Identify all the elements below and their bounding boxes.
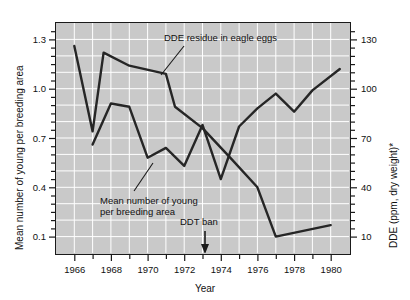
x-axis-tick-label: 1976	[238, 264, 278, 275]
x-axis-tick-label: 1972	[165, 264, 205, 275]
y-axis-right-tick-label: 130	[361, 34, 377, 45]
x-axis-title: Year	[0, 283, 410, 294]
y-axis-left-tick-label: 0.4	[33, 182, 46, 193]
y-axis-left-title: Mean number of young per breeding area	[14, 65, 25, 250]
y-axis-left-tick-label: 1.3	[33, 34, 46, 45]
x-axis-tick-label: 1968	[91, 264, 131, 275]
x-axis-tick-label: 1966	[55, 264, 95, 275]
axis-ticks	[0, 0, 410, 300]
y-axis-right-title: DDE (ppm, dry weight)*	[388, 143, 399, 248]
y-axis-right-tick-label: 40	[361, 182, 372, 193]
x-axis-tick-label: 1980	[311, 264, 351, 275]
y-axis-right-tick-label: 70	[361, 133, 372, 144]
x-axis-tick-label: 1974	[201, 264, 241, 275]
x-axis-tick-label: 1970	[128, 264, 168, 275]
x-axis-tick-label: 1978	[275, 264, 315, 275]
y-axis-right-tick-label: 10	[361, 231, 372, 242]
chart-figure: DDE residue in eagle eggs Mean number of…	[0, 0, 410, 300]
y-axis-left-tick-label: 0.7	[33, 133, 46, 144]
y-axis-left-tick-label: 1.0	[33, 83, 46, 94]
y-axis-left-tick-label: 0.1	[33, 231, 46, 242]
y-axis-right-tick-label: 100	[361, 83, 377, 94]
